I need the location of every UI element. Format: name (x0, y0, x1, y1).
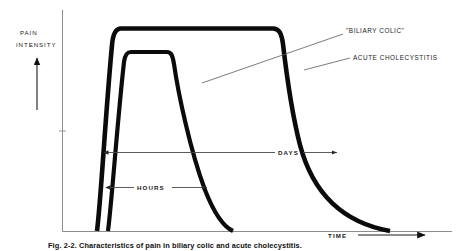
leader-line-biliary-colic (202, 34, 343, 83)
span-hours-label: HOURS (137, 184, 165, 191)
y-axis-label-group: PAIN INTENSITY (16, 29, 56, 110)
span-days-label: DAYS (278, 149, 299, 156)
callout-label-acute-cholecystitis: ACUTE CHOLECYSTITIS (353, 54, 438, 61)
x-axis-label: TIME (328, 232, 347, 239)
callout-acute-cholecystitis: ACUTE CHOLECYSTITIS (304, 54, 438, 70)
callout-label-biliary-colic: "BILIARY COLIC" (346, 27, 404, 34)
leader-line-acute-cholecystitis (304, 58, 350, 70)
x-axis-label-group: TIME (328, 232, 425, 239)
y-axis-label-line2: INTENSITY (16, 41, 56, 48)
span-hours: HOURS (106, 184, 207, 191)
figure-container: PAIN INTENSITY TIME "BILIARY COLIC" ACUT… (0, 0, 468, 251)
figure-caption: Fig. 2-2. Characteristics of pain in bil… (48, 241, 378, 250)
y-axis-label-line1: PAIN (20, 29, 38, 36)
pain-intensity-chart: PAIN INTENSITY TIME "BILIARY COLIC" ACUT… (0, 0, 468, 251)
